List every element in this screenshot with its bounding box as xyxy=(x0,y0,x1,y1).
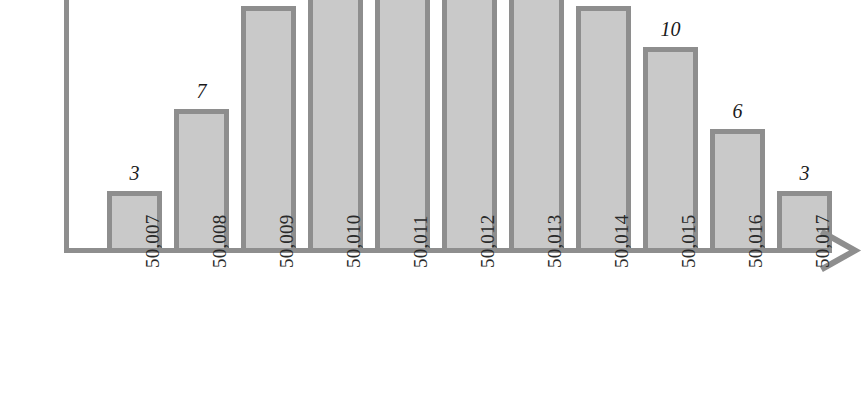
bar-value-label: 6 xyxy=(733,101,743,121)
x-axis-line xyxy=(64,248,826,253)
x-tick-label-text: 50,013 xyxy=(544,215,566,268)
bar-value-label: 10 xyxy=(661,19,681,39)
bar-value-label: 3 xyxy=(800,163,810,183)
x-tick-label-text: 50,012 xyxy=(477,215,499,268)
x-tick-label-text: 50,014 xyxy=(611,215,633,268)
x-tick-label-text: 50,010 xyxy=(343,215,365,268)
plot-area: 371063 xyxy=(0,0,867,253)
histogram-chart: 371063 50,00750,00850,00950,01050,01150,… xyxy=(0,0,867,402)
x-tick-label-text: 50,007 xyxy=(142,215,164,268)
bar-value-label: 7 xyxy=(197,81,207,101)
x-tick-label-text: 50,009 xyxy=(276,215,298,268)
x-tick-label-text: 50,011 xyxy=(410,215,432,268)
x-tick-label-text: 50,016 xyxy=(745,215,767,268)
x-tick-label-text: 50,008 xyxy=(209,215,231,268)
y-axis-line xyxy=(64,0,69,253)
x-tick-label-text: 50,017 xyxy=(812,215,834,268)
x-tick-label-text: 50,015 xyxy=(678,215,700,268)
bar-value-label: 3 xyxy=(130,163,140,183)
